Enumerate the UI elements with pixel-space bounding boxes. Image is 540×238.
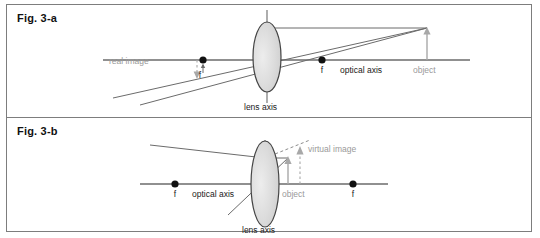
figure-panel-b: Fig. 3-b [7, 118, 531, 232]
figure-panel-a: Fig. 3-a [7, 5, 531, 118]
figure-frame: Fig. 3-a Fig. 3-b [6, 4, 532, 232]
panel-a-title: Fig. 3-a [17, 12, 57, 24]
panel-b-title: Fig. 3-b [17, 125, 58, 137]
